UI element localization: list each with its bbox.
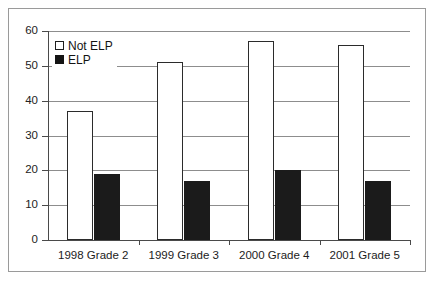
bar-elp-1999-grade-3 [184, 181, 210, 240]
bar-elp-2000-grade-4 [275, 170, 301, 240]
chart-legend: Not ELP ELP [52, 37, 117, 69]
bar-not-elp-1998-grade-2 [67, 111, 93, 240]
bar-elp-1998-grade-2 [94, 174, 120, 240]
legend-label-not-elp: Not ELP [68, 40, 113, 52]
legend-item-not-elp: Not ELP [55, 39, 113, 52]
y-tick-label-0: 0 [2, 234, 38, 246]
x-tick-label-1998-grade-2: 1998 Grade 2 [48, 250, 139, 262]
x-tick-label-2000-grade-4: 2000 Grade 4 [229, 250, 320, 262]
category-separator-3 [320, 240, 321, 245]
y-axis-labels: 0102030405060 [0, 0, 38, 282]
bar-elp-2001-grade-5 [365, 181, 391, 240]
y-tick-label-10: 10 [2, 199, 38, 211]
legend-label-elp: ELP [68, 54, 91, 66]
y-axis-line [48, 31, 49, 241]
y-tick-label-40: 40 [2, 95, 38, 107]
category-separator-2 [229, 240, 230, 245]
gridline-60 [48, 31, 410, 32]
x-tick-label-2001-grade-5: 2001 Grade 5 [320, 250, 411, 262]
legend-item-elp: ELP [55, 53, 113, 66]
legend-swatch-hollow-square-icon [55, 41, 64, 50]
bar-not-elp-2001-grade-5 [338, 45, 364, 240]
category-separator-4 [410, 240, 411, 245]
y-tick-label-30: 30 [2, 130, 38, 142]
bar-not-elp-2000-grade-4 [248, 41, 274, 240]
y-tick-label-50: 50 [2, 60, 38, 72]
x-tick-label-1999-grade-3: 1999 Grade 3 [139, 250, 230, 262]
chart-figure: 0102030405060 1998 Grade 21999 Grade 320… [0, 0, 435, 282]
y-tick-label-20: 20 [2, 164, 38, 176]
legend-swatch-filled-square-icon [55, 55, 64, 64]
y-tick-label-60: 60 [2, 25, 38, 37]
bar-not-elp-1999-grade-3 [157, 62, 183, 240]
category-separator-1 [139, 240, 140, 245]
